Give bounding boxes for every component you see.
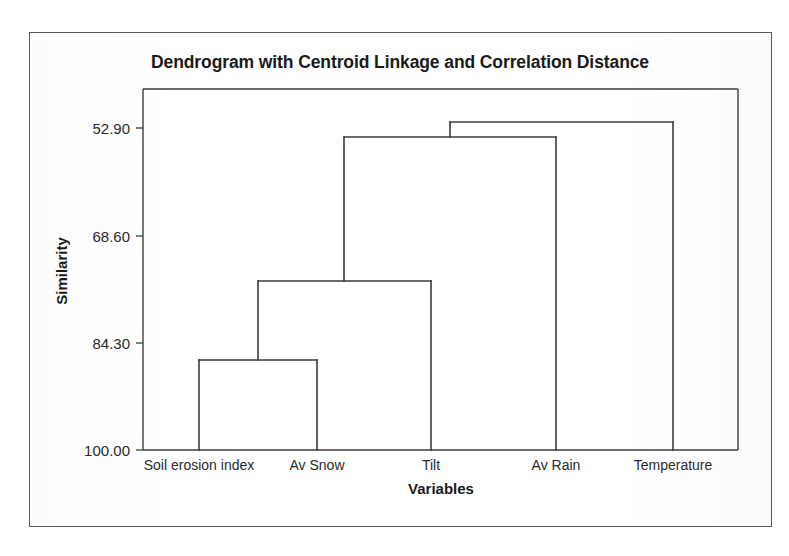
- merge-node-3: [344, 137, 556, 450]
- figure-frame: Dendrogram with Centroid Linkage and Cor…: [29, 32, 772, 527]
- merge-node-2: [258, 281, 431, 450]
- leaf-label-tilt: Tilt: [422, 457, 440, 473]
- dendrogram-svg: Dendrogram with Centroid Linkage and Cor…: [30, 33, 770, 525]
- y-axis-ticks: 52.90 68.60 84.30 100.00: [84, 120, 143, 459]
- y-tick-label-84: 84.30: [92, 335, 130, 352]
- x-axis-leaf-labels: Soil erosion index Av Snow Tilt Av Rain …: [144, 457, 713, 473]
- dendrogram-tree: [199, 122, 673, 450]
- page-root: Dendrogram with Centroid Linkage and Cor…: [0, 0, 789, 556]
- merge-node-1: [199, 360, 317, 450]
- dendrogram-chart: Dendrogram with Centroid Linkage and Cor…: [30, 33, 771, 526]
- x-axis-title: Variables: [408, 480, 474, 497]
- chart-title: Dendrogram with Centroid Linkage and Cor…: [151, 52, 649, 72]
- leaf-label-soil-erosion-index: Soil erosion index: [144, 457, 255, 473]
- y-tick-label-52: 52.90: [92, 120, 130, 137]
- y-axis-title: Similarity: [53, 237, 70, 305]
- leaf-label-av-snow: Av Snow: [290, 457, 346, 473]
- leaf-label-temperature: Temperature: [634, 457, 713, 473]
- y-tick-label-68: 68.60: [92, 228, 130, 245]
- leaf-label-av-rain: Av Rain: [532, 457, 581, 473]
- merge-node-4: [450, 122, 673, 450]
- y-tick-label-100: 100.00: [84, 442, 130, 459]
